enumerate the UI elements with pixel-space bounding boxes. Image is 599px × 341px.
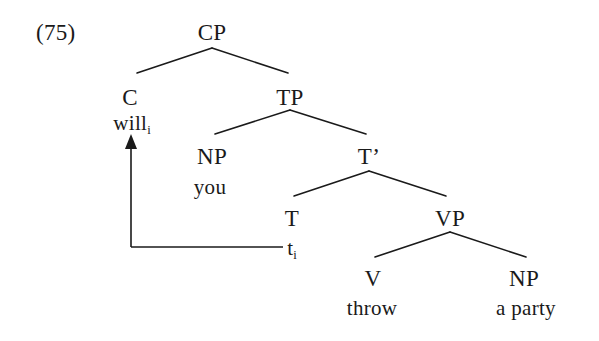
branch-cp-to-c <box>137 48 212 73</box>
node-t: T <box>285 207 299 230</box>
branch-tp-to-tbar <box>290 110 366 134</box>
branch-vp-to-npobj <box>450 232 526 257</box>
movement-arrowhead <box>125 134 137 149</box>
branch-tp-to-np <box>215 110 290 134</box>
branch-cp-to-tp <box>212 48 288 73</box>
node-np-object: NP <box>509 267 539 290</box>
terminal-a-party: a party <box>496 298 556 319</box>
branch-tbar-to-vp <box>369 171 446 196</box>
example-number-label: (75) <box>36 21 76 44</box>
terminal-you: you <box>194 177 226 198</box>
terminal-trace-t: ti <box>287 238 297 259</box>
terminal-will: willi <box>113 113 150 134</box>
terminal-throw: throw <box>347 298 398 319</box>
branch-tbar-to-t <box>294 171 369 196</box>
branch-vp-to-v <box>375 232 450 257</box>
node-c: C <box>122 86 138 109</box>
node-t-bar: T’ <box>358 145 380 168</box>
node-v: V <box>365 267 382 290</box>
tree-diagram-figure: (75) CP C willi TP NP you T’ T ti VP V t… <box>0 0 599 341</box>
node-np-subject: NP <box>197 145 227 168</box>
node-cp: CP <box>198 21 227 44</box>
node-tp: TP <box>276 86 303 109</box>
node-vp: VP <box>435 207 465 230</box>
